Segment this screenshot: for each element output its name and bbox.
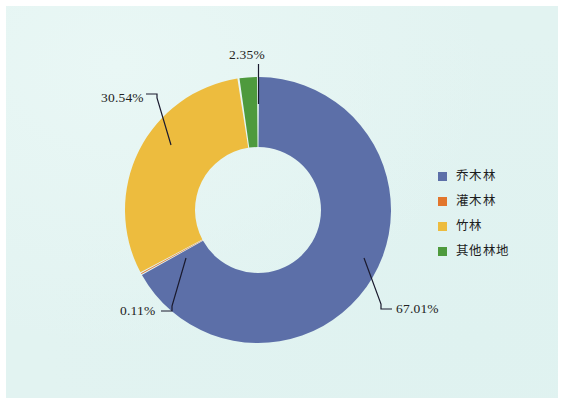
- legend-label-0: 乔木林: [456, 170, 496, 183]
- data-label-bamboo-forest: 30.54%: [101, 90, 144, 106]
- donut-slice-2[interactable]: [125, 79, 248, 273]
- data-label-shrub-forest: 0.11%: [120, 303, 155, 319]
- data-label-arbor-forest: 67.01%: [396, 301, 439, 317]
- legend-swatch-qiaomulin: [438, 172, 447, 181]
- donut-slice-group: [125, 77, 391, 343]
- chart-page: 2.35% 30.54% 0.11% 67.01% 乔木林灌木林竹林其他林地: [0, 0, 564, 404]
- legend-label-1: 灌木林: [456, 195, 496, 208]
- chart-legend: 乔木林灌木林竹林其他林地: [438, 164, 548, 264]
- legend-swatch-qitalindi: [438, 247, 447, 256]
- legend-label-3: 其他林地: [456, 245, 510, 258]
- legend-label-2: 竹林: [456, 220, 483, 233]
- donut-chart: 2.35% 30.54% 0.11% 67.01% 乔木林灌木林竹林其他林地: [0, 0, 564, 404]
- legend-item-3[interactable]: 其他林地: [438, 239, 548, 264]
- legend-item-1[interactable]: 灌木林: [438, 189, 548, 214]
- legend-swatch-zhulin: [438, 222, 447, 231]
- legend-item-0[interactable]: 乔木林: [438, 164, 548, 189]
- legend-item-2[interactable]: 竹林: [438, 214, 548, 239]
- legend-swatch-guanmulin: [438, 197, 447, 206]
- data-label-other-forest: 2.35%: [229, 47, 265, 63]
